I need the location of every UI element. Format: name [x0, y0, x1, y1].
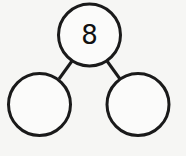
number-bond-diagram: 8	[0, 0, 186, 156]
part-circle-right[interactable]	[107, 74, 169, 136]
connector-left	[59, 61, 72, 79]
whole-value: 8	[81, 20, 98, 50]
part-circle-left[interactable]	[9, 74, 71, 136]
connector-right	[107, 61, 120, 79]
